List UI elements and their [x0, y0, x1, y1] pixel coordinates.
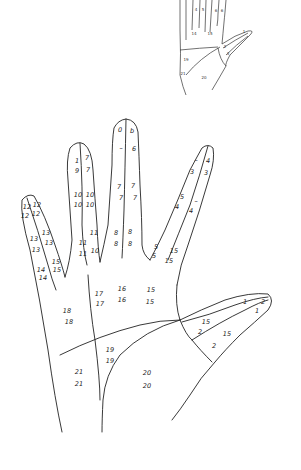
region-label: 13: [45, 240, 53, 247]
region-label: 13: [32, 247, 40, 254]
region-label: 4: [206, 158, 210, 165]
region-label: 21: [180, 72, 185, 76]
region-label: 5: [202, 8, 205, 12]
region-label: 8: [128, 241, 132, 248]
region-label: 4: [195, 8, 198, 12]
region-label: 7: [119, 195, 123, 202]
region-label: 6: [215, 9, 218, 13]
region-label: 5: [154, 244, 158, 251]
region-label: 0: [118, 127, 122, 134]
region-label: 2: [261, 299, 265, 306]
region-label: 15: [165, 258, 173, 265]
region-label: 7: [117, 184, 121, 191]
region-label: 15: [202, 319, 210, 326]
region-label: –: [194, 157, 197, 164]
region-label: 14: [191, 32, 196, 36]
region-label: 15: [147, 287, 155, 294]
region-label: 12: [23, 204, 31, 211]
region-label: 17: [96, 301, 104, 308]
region-label: 20: [143, 383, 151, 390]
region-label: 1: [243, 30, 246, 34]
region-label: 3: [204, 170, 208, 177]
region-label: 15: [207, 32, 212, 36]
region-label: 16: [118, 286, 126, 293]
region-label: 10: [86, 202, 94, 209]
region-label: 1: [255, 308, 259, 315]
region-label: 7: [133, 195, 137, 202]
region-label: 6: [132, 146, 136, 153]
region-label: 21: [75, 381, 83, 388]
region-label: 13: [42, 230, 50, 237]
region-label: 1: [243, 299, 247, 306]
region-label: 19: [106, 347, 114, 354]
region-label: 5: [180, 194, 184, 201]
region-label: b: [130, 128, 134, 135]
region-label: 5: [152, 253, 156, 260]
region-label: 10: [74, 192, 82, 199]
region-label: 7: [86, 167, 90, 174]
region-label: 14: [39, 275, 47, 282]
region-label: 11: [79, 251, 87, 258]
region-label: 15: [53, 267, 61, 274]
thumbnail-hand-outline: [180, 0, 252, 95]
region-label: 8: [114, 230, 118, 237]
region-label: 10: [91, 248, 99, 255]
region-label: 16: [118, 297, 126, 304]
region-label: 3: [190, 169, 194, 176]
region-label: 21: [75, 369, 83, 376]
region-label: 2: [212, 343, 216, 350]
region-label: 18: [63, 308, 71, 315]
region-label: 17: [95, 291, 103, 298]
region-label: 6: [221, 9, 224, 13]
region-label: 12: [33, 202, 41, 209]
region-label: 7: [85, 155, 89, 162]
region-label: 14: [37, 267, 45, 274]
region-label: 19: [106, 358, 114, 365]
region-label: 4: [175, 204, 179, 211]
region-label: 8: [128, 229, 132, 236]
region-label: 15: [223, 331, 231, 338]
region-label: –: [119, 145, 122, 152]
region-label: 1: [75, 158, 79, 165]
region-label: 12: [32, 211, 40, 218]
region-label: 2: [198, 329, 202, 336]
region-label: 20: [201, 76, 206, 80]
region-label: 8: [114, 241, 118, 248]
region-label: 12: [21, 213, 29, 220]
region-label: 13: [30, 236, 38, 243]
region-label: 3: [227, 52, 230, 56]
region-label: 10: [86, 192, 94, 199]
region-label: 11: [90, 230, 98, 237]
region-label: –: [194, 198, 197, 205]
region-label: 15: [52, 259, 60, 266]
region-label: 20: [143, 370, 151, 377]
region-label: 19: [183, 58, 188, 62]
region-label: 10: [74, 202, 82, 209]
region-label: 9: [75, 168, 79, 175]
region-label: 18: [65, 319, 73, 326]
region-label: 4: [189, 208, 193, 215]
region-label: 15: [146, 299, 154, 306]
region-label: 11: [79, 240, 87, 247]
region-label: 2: [224, 45, 227, 49]
region-label: 15: [170, 248, 178, 255]
region-label: 7: [131, 183, 135, 190]
